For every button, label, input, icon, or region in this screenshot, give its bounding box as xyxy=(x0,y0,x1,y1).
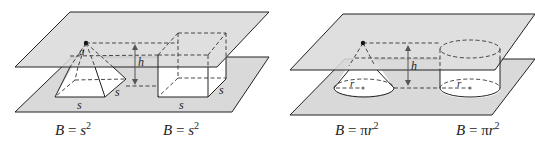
caption-var: B xyxy=(335,122,344,138)
cylinder-center-point xyxy=(468,86,471,89)
caption-prism: B = s2 xyxy=(163,122,199,139)
height-label: h xyxy=(411,59,417,73)
caption-cone: B = πr2 xyxy=(335,122,379,139)
prism-depth-label: s xyxy=(219,83,224,97)
right-panel: h r r xyxy=(290,14,535,115)
caption-pi: π xyxy=(360,122,368,138)
caption-cylinder: B = πr2 xyxy=(456,122,500,139)
caption-exp: 2 xyxy=(495,120,500,131)
cone-center-point xyxy=(361,86,364,89)
prism-side-label: s xyxy=(179,98,184,112)
caption-pyramid: B = s2 xyxy=(55,122,91,139)
pyramid-side-label: s xyxy=(77,98,82,112)
pyramid-depth-label: s xyxy=(115,85,120,99)
caption-exp: 2 xyxy=(374,120,379,131)
caption-eq: = xyxy=(176,122,184,138)
caption-exp: 2 xyxy=(86,120,91,131)
caption-eq: = xyxy=(68,122,76,138)
caption-var: B xyxy=(163,122,172,138)
left-panel: a h s s s s xyxy=(15,12,269,112)
caption-exp: 2 xyxy=(194,120,199,131)
caption-eq: = xyxy=(469,122,477,138)
height-label: h xyxy=(138,55,144,69)
apex-label: a xyxy=(79,45,85,57)
cone-radius-label: r xyxy=(350,77,355,89)
caption-eq: = xyxy=(348,122,356,138)
caption-var: B xyxy=(456,122,465,138)
caption-var: B xyxy=(55,122,64,138)
caption-pi: π xyxy=(481,122,489,138)
cylinder-radius-label: r xyxy=(457,77,462,89)
